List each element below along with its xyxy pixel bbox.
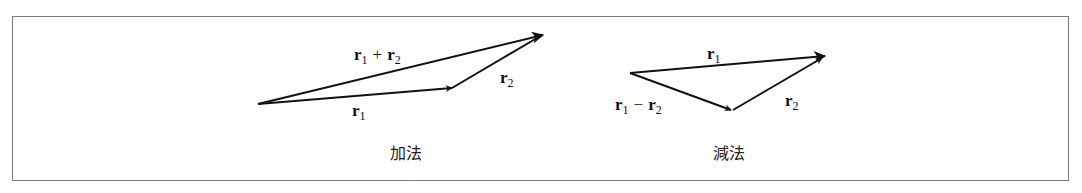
label-difference: r1−r2 — [615, 95, 662, 117]
subtraction-diagram: r1 r1−r2 r2 減法 — [615, 44, 825, 163]
label-sum: r1+r2 — [354, 45, 401, 67]
label-r2: r2 — [500, 68, 514, 90]
caption-addition: 加法 — [390, 144, 422, 163]
vector-diagram: r1+r2 r1 r2 加法 r1 r1−r2 r2 減法 — [0, 0, 1082, 193]
vector-r2-segment — [452, 38, 537, 88]
label-r1: r1 — [707, 44, 721, 66]
addition-diagram: r1+r2 r1 r2 加法 — [258, 35, 543, 163]
vector-difference-arrow — [630, 73, 731, 110]
vector-r1-arrow — [630, 56, 825, 73]
label-r2: r2 — [785, 91, 799, 113]
caption-subtraction: 減法 — [713, 144, 745, 163]
vector-r2-arrow — [733, 58, 822, 110]
label-r1: r1 — [352, 101, 366, 123]
